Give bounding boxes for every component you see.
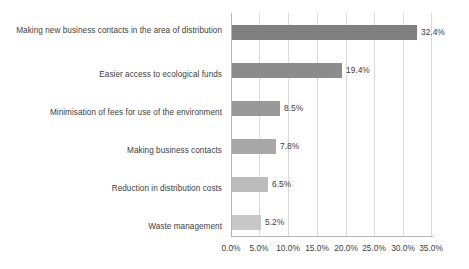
category-label: Making new business contacts in the area… (7, 26, 222, 37)
bar-value-label: 6.5% (272, 177, 291, 192)
bar-chart: Making new business contacts in the area… (0, 0, 469, 269)
x-axis-line (231, 236, 433, 237)
bar-value-label: 32.4% (421, 25, 445, 40)
y-axis-line (231, 13, 232, 236)
x-axis-tick-labels: 0.0% 5.0% 10.0% 15.0% 20.0% 25.0% 30.0% … (231, 243, 433, 259)
bar-value-label: 7.8% (280, 139, 299, 154)
bar (231, 101, 280, 116)
plot-area: 32.4% 19.4% 8.5% 7.8% 6.5% 5.2% (231, 13, 432, 236)
gridline-x (374, 13, 375, 236)
gridline-x (288, 13, 289, 236)
x-tick-label: 5.0% (249, 243, 268, 253)
gridline-x (346, 13, 347, 236)
category-label: Waste management (7, 222, 222, 233)
gridline-x (403, 13, 404, 236)
category-label-column: Making new business contacts in the area… (0, 13, 228, 236)
x-tick-label: 0.0% (221, 243, 240, 253)
gridline-x (317, 13, 318, 236)
bar (231, 63, 342, 78)
bar (231, 215, 261, 230)
x-tick-label: 35.0% (419, 243, 443, 253)
category-label: Minimisation of fees for use of the envi… (7, 108, 222, 119)
x-tick-label: 10.0% (276, 243, 300, 253)
bar-value-label: 8.5% (284, 101, 303, 116)
bar (231, 139, 276, 154)
category-label: Reduction in distribution costs (7, 184, 222, 195)
bar-value-label: 19.4% (346, 63, 370, 78)
category-label: Making business contacts (7, 146, 222, 157)
bar (231, 177, 268, 192)
bar (231, 25, 417, 40)
x-tick-label: 15.0% (305, 243, 329, 253)
gridline-x (259, 13, 260, 236)
x-tick-label: 25.0% (362, 243, 386, 253)
bar-value-label: 5.2% (265, 215, 284, 230)
gridline-x (431, 13, 432, 236)
x-tick-label: 30.0% (391, 243, 415, 253)
x-tick-label: 20.0% (334, 243, 358, 253)
category-label: Easier access to ecological funds (7, 70, 222, 81)
